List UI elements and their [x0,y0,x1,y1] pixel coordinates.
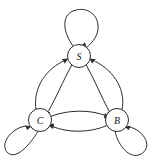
node-c[interactable]: C [29,109,52,132]
node-label-c: C [37,115,44,126]
edge-b-to-s[interactable] [90,59,123,110]
state-transition-diagram: S C B [0,0,157,162]
edge-path-b-to-s [96,62,123,110]
self-loop-path-s [65,9,98,47]
edge-s-to-c[interactable] [45,66,72,117]
edge-s-to-b[interactable] [87,66,113,117]
node-s[interactable]: S [68,45,91,68]
edge-path-b-to-c [53,126,108,132]
edge-b-to-c[interactable] [47,124,108,131]
node-b[interactable]: B [106,109,129,132]
node-label-s: S [77,51,82,62]
state-diagram-container: S C B [0,0,157,162]
edge-path-c-to-s [35,62,62,110]
edge-path-s-to-b [87,66,110,112]
edge-path-s-to-c [49,66,72,112]
edge-path-c-to-b [51,111,106,116]
self-loop-edge-c[interactable] [5,126,38,155]
self-loop-edge-s[interactable] [65,9,98,47]
edge-c-to-b[interactable] [51,111,112,118]
node-label-b: B [114,115,120,126]
self-loop-path-c [5,126,38,155]
edge-c-to-s[interactable] [35,59,68,110]
